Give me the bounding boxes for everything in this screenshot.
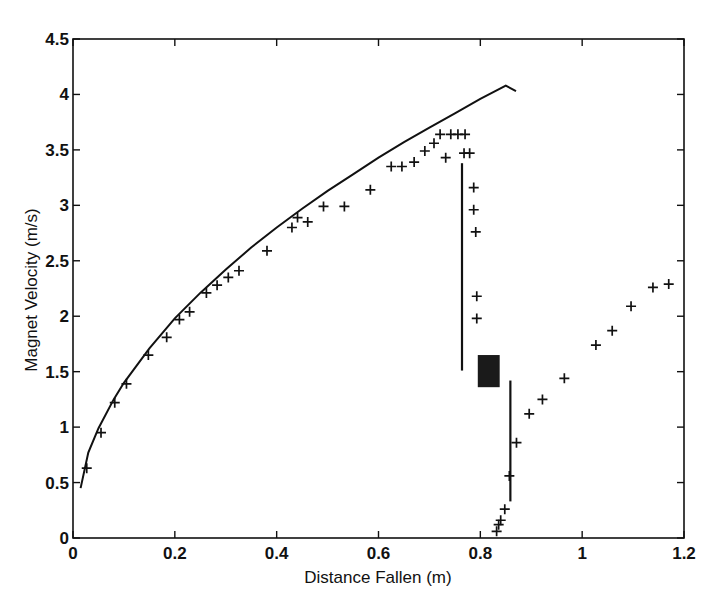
data-point-plus (469, 205, 479, 215)
velocity-vs-distance-chart: 00.20.40.60.811.2 00.511.522.533.544.5 D… (0, 0, 719, 610)
data-point-plus (494, 520, 504, 530)
data-point-plus (262, 246, 272, 256)
data-point-plus (492, 526, 502, 536)
y-tick-label: 0.5 (45, 474, 69, 493)
data-point-plus (365, 185, 375, 195)
data-point-plus (441, 153, 451, 163)
y-tick-label: 0 (60, 529, 69, 548)
data-point-plus (500, 504, 510, 514)
y-tick-label: 2 (60, 307, 69, 326)
data-point-plus (162, 332, 172, 342)
data-point-plus (626, 301, 636, 311)
data-point-plus (472, 291, 482, 301)
data-point-plus (559, 373, 569, 383)
data-point-plus (511, 438, 521, 448)
data-point-plus (607, 326, 617, 336)
data-point-plus (223, 272, 233, 282)
x-tick-label: 1.2 (672, 544, 696, 563)
obstruction-block (478, 355, 500, 387)
data-point-plus (110, 398, 120, 408)
data-point-plus (339, 201, 349, 211)
data-point-plus (287, 223, 297, 233)
data-point-plus (397, 162, 407, 172)
x-tick-label: 0.4 (265, 544, 289, 563)
plot-area (81, 86, 674, 537)
data-point-plus (472, 313, 482, 323)
x-tick-label: 0.8 (469, 544, 493, 563)
data-point-plus (537, 394, 547, 404)
x-tick-label: 0 (68, 544, 77, 563)
data-point-plus (121, 379, 131, 389)
data-point-plus (303, 217, 313, 227)
data-point-plus (469, 183, 479, 193)
data-point-plus (496, 515, 506, 525)
y-tick-label: 3 (60, 196, 69, 215)
data-point-plus (409, 157, 419, 167)
y-tick-label: 4 (60, 85, 70, 104)
data-point-plus (435, 129, 445, 139)
data-point-plus (143, 350, 153, 360)
y-tick-label: 4.5 (45, 30, 69, 49)
data-point-plus (386, 162, 396, 172)
data-point-plus (524, 409, 534, 419)
axes-box (73, 39, 684, 538)
data-point-plus (319, 201, 329, 211)
data-point-plus (460, 129, 470, 139)
x-axis-label: Distance Fallen (m) (304, 568, 451, 587)
y-axis-label: Magnet Velocity (m/s) (22, 208, 41, 371)
x-axis-ticks: 00.20.40.60.811.2 (68, 39, 696, 563)
data-point-plus (471, 227, 481, 237)
plot-frame (73, 39, 684, 538)
data-point-plus (465, 148, 475, 158)
y-axis-ticks: 00.511.522.533.544.5 (45, 30, 684, 548)
y-tick-label: 1.5 (45, 363, 69, 382)
data-point-plus (591, 340, 601, 350)
data-point-plus (648, 282, 658, 292)
fit-curve (81, 86, 516, 489)
x-tick-label: 1 (577, 544, 586, 563)
y-tick-label: 2.5 (45, 252, 69, 271)
data-point-plus (664, 279, 674, 289)
data-point-plus (429, 138, 439, 148)
data-point-plus (420, 146, 430, 156)
data-point-plus (234, 266, 244, 276)
y-tick-label: 1 (60, 418, 69, 437)
x-tick-label: 0.2 (163, 544, 187, 563)
x-tick-label: 0.6 (367, 544, 391, 563)
y-tick-label: 3.5 (45, 141, 69, 160)
